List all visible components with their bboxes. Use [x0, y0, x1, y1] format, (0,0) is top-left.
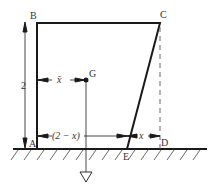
xbar-dimension [38, 78, 85, 82]
label-xbar: x̄ [56, 74, 62, 85]
label-d: D [161, 137, 168, 148]
label-g: G [89, 68, 96, 79]
wall-diagram: B C A D E G 2 x̄ (2 − x) x [0, 0, 217, 188]
label-b: B [30, 10, 37, 21]
label-height: 2 [21, 80, 26, 91]
ground-hatching [11, 150, 200, 160]
label-two-minus-x: (2 − x) [52, 130, 81, 142]
label-c: C [160, 9, 167, 20]
label-e: E [123, 151, 129, 162]
x-dimension [127, 134, 160, 138]
label-a: A [29, 138, 37, 149]
label-x: x [138, 130, 144, 141]
diagram-canvas: B C A D E G 2 x̄ (2 − x) x [0, 0, 217, 188]
weight-triangle-icon [80, 172, 92, 182]
